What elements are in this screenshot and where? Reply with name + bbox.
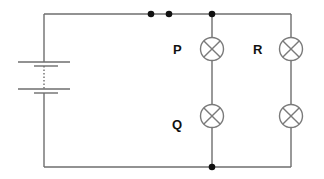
lamp-p-icon — [201, 38, 224, 61]
label-p: P — [173, 42, 182, 57]
junction-top — [209, 11, 216, 18]
switch-contact-left — [148, 11, 155, 18]
circuit-diagram: P R Q — [0, 0, 324, 179]
switch-contact-right — [166, 11, 173, 18]
lamp-q-icon — [201, 105, 224, 128]
lamp-r-icon — [280, 38, 303, 61]
label-q: Q — [172, 117, 182, 132]
lamp-unlabeled-icon — [280, 105, 303, 128]
label-r: R — [253, 42, 263, 57]
junction-bottom — [209, 164, 216, 171]
wires — [44, 14, 291, 167]
